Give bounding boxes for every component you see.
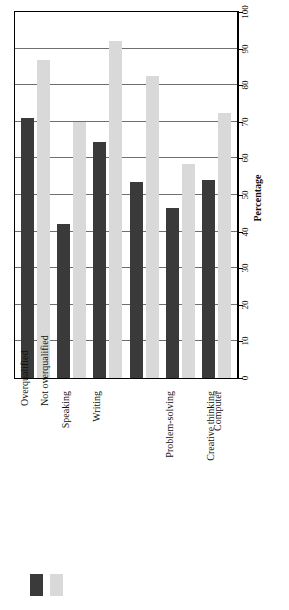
- bar: [166, 208, 179, 378]
- legend-label: Overqualified: [20, 350, 30, 406]
- bar: [202, 180, 215, 378]
- plot-area: [14, 11, 238, 379]
- chart-canvas: 0102030405060708090100 Percentage Speaki…: [0, 0, 289, 610]
- axis-tick-label: 100: [241, 5, 250, 19]
- bar: [57, 224, 70, 378]
- bar-group: [130, 12, 159, 378]
- bar: [130, 182, 143, 378]
- category-label: Problem-solving: [165, 391, 175, 458]
- axis-tick-label: 30: [241, 264, 250, 273]
- bar: [73, 122, 86, 378]
- category-label: Computer: [213, 391, 223, 431]
- axis-tick-label: 40: [241, 227, 250, 236]
- bar: [146, 76, 159, 378]
- bar-group: [21, 12, 50, 378]
- axis-tick-label: 20: [241, 300, 250, 309]
- bar-group: [57, 12, 86, 378]
- legend-swatch: [50, 574, 63, 596]
- axis-tick-label: 90: [241, 44, 250, 53]
- axis-tick-label: 60: [241, 154, 250, 163]
- bar-group: [166, 12, 195, 378]
- bar: [21, 118, 34, 378]
- bar: [93, 142, 106, 378]
- axis-tick-label: 70: [241, 117, 250, 126]
- bar-group: [202, 12, 231, 378]
- legend-swatch: [30, 574, 43, 596]
- category-label: Speaking: [61, 391, 71, 428]
- bar: [37, 60, 50, 378]
- bar-group: [93, 12, 122, 378]
- axis-tick-label: 80: [241, 81, 250, 90]
- legend-label: Not overqualified: [40, 335, 50, 406]
- axis-tick-label: 50: [241, 191, 250, 200]
- bar: [109, 41, 122, 378]
- legend: OverqualifiedNot overqualified: [30, 486, 100, 606]
- bar: [182, 164, 195, 378]
- axis-title: Percentage: [252, 174, 263, 221]
- bar: [218, 113, 231, 378]
- axis-tick-label: 0: [241, 376, 250, 381]
- axis-tick-label: 10: [241, 337, 250, 346]
- category-label: Writing: [92, 391, 102, 422]
- bar-group-container: [15, 12, 237, 378]
- value-axis: 0102030405060708090100: [238, 11, 250, 379]
